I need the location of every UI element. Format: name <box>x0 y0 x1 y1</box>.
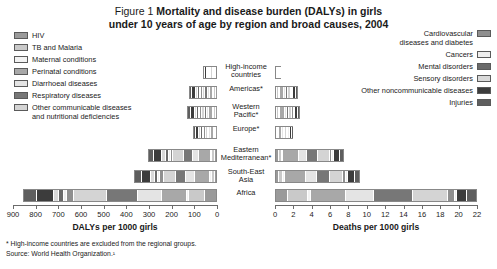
axis-tick <box>440 205 441 209</box>
stacked-bar <box>148 149 217 162</box>
region-label: Western Pacific* <box>218 103 274 120</box>
axis-tick <box>149 205 150 209</box>
axis-tick-label: 2 <box>291 210 295 219</box>
axis-tick <box>126 205 127 209</box>
bar-segment <box>318 150 330 161</box>
legend-item-label: HIV <box>32 31 44 40</box>
legend-swatch-icon <box>477 75 491 82</box>
bar-segment <box>184 150 193 161</box>
region-label: South-East Asia <box>218 168 274 185</box>
axis-tick-label: 200 <box>165 210 178 219</box>
axis-tick <box>36 205 37 209</box>
legend-item[interactable]: HIV <box>14 31 194 40</box>
bar-segment <box>173 150 184 161</box>
axis-tick-label: 600 <box>75 210 88 219</box>
figure-number: Figure 1 <box>115 5 156 17</box>
legend-item-label: TB and Malaria <box>32 43 82 52</box>
bar-segment <box>142 171 151 182</box>
bar-segment <box>154 150 162 161</box>
bar-segment <box>307 150 318 161</box>
stacked-bar <box>275 66 281 79</box>
region-labels: High-income countriesAmericas*Western Pa… <box>218 60 274 205</box>
axis-tick <box>293 205 294 209</box>
bar-segment <box>298 107 299 118</box>
axis-tick <box>385 205 386 209</box>
bar-segment <box>374 190 413 201</box>
stacked-bar <box>134 170 217 183</box>
bar-segment <box>199 150 211 161</box>
stacked-bar <box>187 106 217 119</box>
bar-segment <box>107 190 137 201</box>
legend-swatch-icon <box>14 44 28 51</box>
bar-segment <box>457 190 467 201</box>
bar-segment <box>285 171 307 182</box>
bar-segment <box>195 171 211 182</box>
stacked-bar <box>23 189 217 202</box>
bar-segment <box>215 171 216 182</box>
legend-item[interactable]: Cancers <box>291 50 491 59</box>
footnotes: * High-income countries are excluded fro… <box>6 239 196 259</box>
bar-segment <box>292 127 293 138</box>
stacked-bar <box>275 86 298 99</box>
bar-segment <box>24 190 37 201</box>
axis-tick <box>367 205 368 209</box>
bar-segment <box>311 190 347 201</box>
bar-segment <box>283 150 299 161</box>
bar-segment <box>215 150 216 161</box>
axis-tick <box>330 205 331 209</box>
axis-tick-label: 300 <box>143 210 156 219</box>
bar-segment <box>467 190 477 201</box>
bar-segment <box>330 171 344 182</box>
bar-segment <box>164 171 176 182</box>
region-label: High-income countries <box>218 63 274 80</box>
legend-swatch-icon <box>14 32 28 39</box>
legend-swatch-icon <box>477 99 491 106</box>
footnote-asterisk: * High-income countries are excluded fro… <box>6 239 196 249</box>
stacked-bar <box>275 106 300 119</box>
axis-tick <box>422 205 423 209</box>
bar-segment <box>317 171 330 182</box>
bar-segment <box>37 190 53 201</box>
axis-tick-label: 500 <box>97 210 110 219</box>
axis-title-left: DALYs per 1000 girls <box>13 222 217 232</box>
panel-dalys <box>13 60 217 205</box>
axis-tick-label: 0 <box>273 210 277 219</box>
axis-tick-label: 22 <box>473 210 481 219</box>
axis-tick <box>104 205 105 209</box>
axis-tick <box>172 205 173 209</box>
region-label: Africa <box>218 189 274 197</box>
axis-tick-label: 18 <box>436 210 444 219</box>
figure-container: Figure 1 Mortality and disease burden (D… <box>0 0 497 269</box>
bar-segment <box>284 67 285 78</box>
legend-item[interactable]: TB and Malaria <box>14 43 194 52</box>
bar-segment <box>74 190 108 201</box>
legend-item[interactable]: Cardiovascular diseases and diabetes <box>291 29 491 48</box>
bar-segment <box>138 190 163 201</box>
bar-segment <box>186 171 195 182</box>
axis-tick <box>81 205 82 209</box>
bar-segment <box>205 190 216 201</box>
footnote-source: Source: World Health Organization.¹ <box>6 249 196 259</box>
axis-tick <box>275 205 276 209</box>
bar-segment <box>346 190 374 201</box>
axis-tick-label: 800 <box>29 210 42 219</box>
axis-tick-label: 4 <box>310 210 314 219</box>
axis-tick-label: 14 <box>399 210 407 219</box>
axis-tick-label: 10 <box>363 210 371 219</box>
axis-tick-label: 12 <box>381 210 389 219</box>
bar-segment <box>296 87 297 98</box>
stacked-bar <box>275 149 344 162</box>
axis-title-right: Deaths per 1000 girls <box>275 222 477 232</box>
figure-title: Figure 1 Mortality and disease burden (D… <box>0 5 497 31</box>
legend-item-label: Cancers <box>445 50 473 59</box>
bar-segment <box>413 190 449 201</box>
axis-line-left <box>13 205 217 206</box>
axis-tick <box>194 205 195 209</box>
axis-tick <box>58 205 59 209</box>
figure-title-line1: Mortality and disease burden (DALYs) in … <box>156 5 382 17</box>
legend-swatch-icon <box>477 87 491 94</box>
axis-tick-label: 8 <box>346 210 350 219</box>
axis-tick-label: 6 <box>328 210 332 219</box>
bar-segment <box>176 171 186 182</box>
bar-segment <box>276 190 288 201</box>
